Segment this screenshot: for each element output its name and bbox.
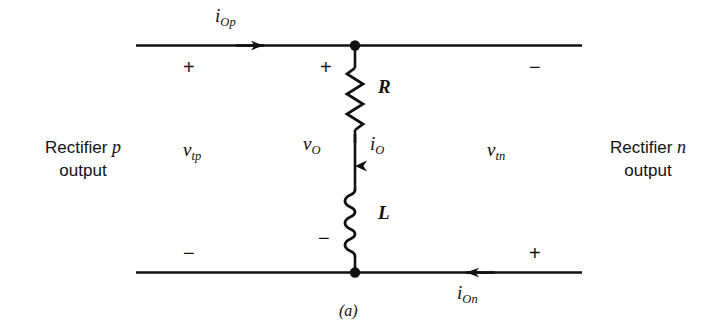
- right-source-block: Rectifier n output: [582, 135, 714, 183]
- right-source-line2: output: [582, 160, 714, 183]
- right-terminal-voltage-label: vtn: [487, 140, 506, 163]
- figure-caption: (a): [339, 303, 358, 319]
- resistor-symbol: [347, 68, 363, 130]
- output-voltage-subscript: O: [311, 143, 320, 157]
- polarity-bottom-right: +: [529, 243, 541, 263]
- junction-dot-bottom: [350, 267, 360, 277]
- junction-dot-top: [350, 40, 360, 50]
- left-terminal-voltage-subscript: tp: [191, 149, 201, 163]
- right-source-prefix: Rectifier: [610, 138, 677, 157]
- branch-current-subscript: O: [375, 143, 384, 157]
- figure-canvas: iOp iOn iO vO vtp vtn R L Rectifier p ou…: [0, 0, 727, 333]
- top-current-subscript: Op: [220, 15, 236, 29]
- branch-current-label: iO: [370, 134, 385, 157]
- inductor-symbol: [345, 190, 355, 256]
- polarity-branch-top: +: [320, 57, 332, 77]
- inductor-label: L: [378, 203, 390, 222]
- left-terminal-voltage-label: vtp: [183, 140, 202, 163]
- left-source-line2: output: [18, 160, 148, 183]
- polarity-bottom-left: −: [183, 243, 195, 263]
- bottom-current-subscript: On: [462, 292, 478, 306]
- left-source-symbol: p: [112, 137, 121, 157]
- right-source-line1: Rectifier n: [582, 135, 714, 160]
- bottom-current-label: iOn: [457, 283, 478, 306]
- polarity-branch-bottom: −: [318, 228, 330, 248]
- output-voltage-label: vO: [303, 134, 321, 157]
- polarity-top-right: −: [529, 57, 541, 77]
- top-current-label: iOp: [215, 6, 236, 29]
- right-terminal-voltage-subscript: tn: [495, 149, 505, 163]
- resistor-label: R: [378, 77, 391, 96]
- right-source-symbol: n: [677, 137, 686, 157]
- left-source-prefix: Rectifier: [45, 138, 112, 157]
- left-source-line1: Rectifier p: [18, 135, 148, 160]
- left-source-block: Rectifier p output: [18, 135, 148, 183]
- polarity-top-left: +: [183, 57, 195, 77]
